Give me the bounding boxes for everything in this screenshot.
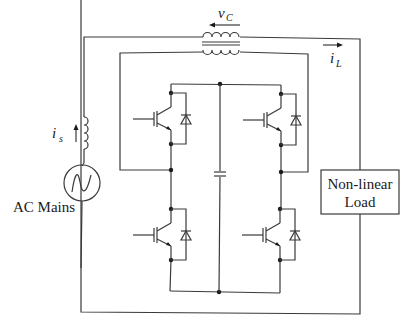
dc-capacitor <box>214 84 226 292</box>
ac-source <box>64 163 100 268</box>
load-label-line2: Load <box>345 194 376 210</box>
circuit-diagram: i s AC Mains v C i L <box>0 0 406 325</box>
load-current-label: i <box>330 50 334 66</box>
igbt-upper-left <box>133 91 191 146</box>
svg-text:s: s <box>59 133 63 144</box>
secondary-wires <box>120 52 308 172</box>
igbt-lower-right <box>242 207 300 262</box>
igbt-lower-left <box>133 207 191 262</box>
nonlinear-load: Non-linear Load <box>321 170 399 214</box>
source-current-label: i <box>52 125 56 141</box>
svg-text:C: C <box>226 12 233 23</box>
transformer-voltage-label: v <box>218 5 225 21</box>
igbt-upper-right <box>243 92 301 147</box>
source-inductor <box>84 117 88 163</box>
source-current-indicator: i s <box>52 124 79 144</box>
load-label-line1: Non-linear <box>328 176 393 192</box>
svg-text:L: L <box>335 58 342 69</box>
load-current-indicator: i L <box>323 43 343 70</box>
series-transformer <box>202 33 240 55</box>
ac-mains-label: AC Mains <box>13 199 75 215</box>
transformer-voltage-indicator: v C <box>209 5 240 28</box>
